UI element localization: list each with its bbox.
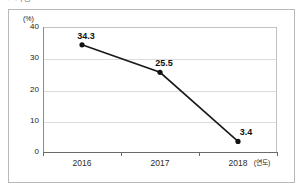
x-axis-line (43, 152, 277, 153)
y-axis-tick-labels: 403020100 (19, 27, 39, 153)
y-axis-tick-label: 40 (19, 23, 39, 31)
y-axis-line (43, 27, 44, 153)
x-axis-category-label: 2017 (151, 158, 170, 168)
gridline (44, 91, 276, 92)
y-axis-tick-label: 10 (19, 117, 39, 125)
x-axis-category-label: 2016 (73, 158, 92, 168)
cropped-text-fragment: ● 가정 (6, 0, 66, 3)
y-axis-tick-label: 20 (19, 86, 39, 94)
x-axis-tick (43, 152, 44, 156)
x-axis-tick (277, 152, 278, 156)
data-point-label: 25.5 (155, 58, 173, 68)
data-point-label: 3.4 (240, 127, 253, 137)
gridline (44, 122, 276, 123)
chart-figure-frame: (%) 403020100 201620172018(연도)34.325.53.… (8, 9, 295, 183)
y-axis-tick-label: 30 (19, 54, 39, 62)
x-axis-tick (199, 152, 200, 156)
x-axis-category-label: 2018 (229, 158, 248, 168)
data-point-label: 34.3 (77, 31, 95, 41)
x-axis-unit-label: (연도) (254, 158, 271, 168)
x-axis-tick (121, 152, 122, 156)
y-axis-tick-label: 0 (19, 148, 39, 156)
